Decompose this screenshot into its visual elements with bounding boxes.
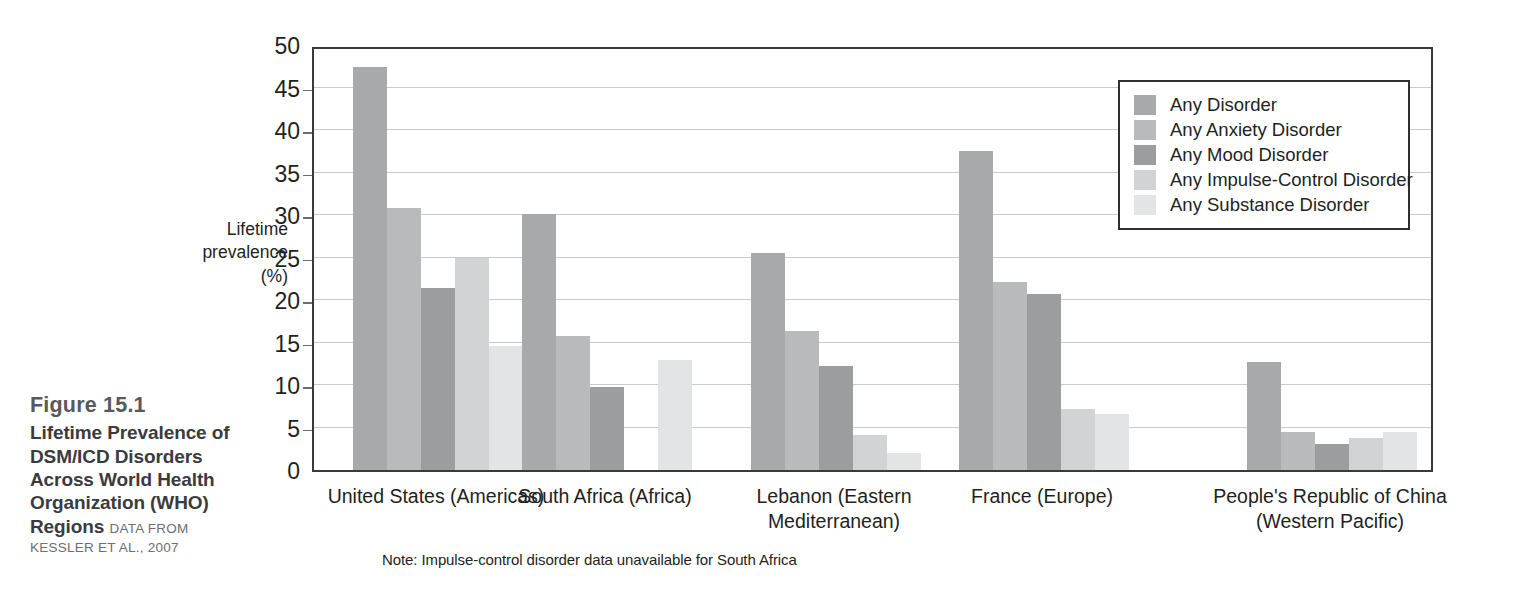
x-axis-group-label-line: France (Europe): [892, 484, 1192, 509]
y-axis-tick-mark: [303, 175, 312, 177]
bar: [1061, 409, 1095, 470]
figure-title-text: Lifetime Prevalence of DSM/ICD Disorders…: [30, 422, 230, 536]
legend-item: Any Substance Disorder: [1120, 192, 1408, 217]
bar: [353, 67, 387, 470]
legend-item-label: Any Mood Disorder: [1170, 144, 1328, 166]
y-axis-tick-label: 45: [240, 78, 300, 101]
bar: [1281, 432, 1315, 470]
x-axis-group-label-line: Mediterranean): [684, 509, 984, 534]
y-axis-tick-mark: [303, 345, 312, 347]
figure-source-citation: KESSLER ET AL., 2007: [30, 540, 262, 557]
y-axis-tick-label: 10: [240, 375, 300, 398]
figure-source-lead: DATA FROM: [109, 521, 188, 536]
bar: [387, 208, 421, 470]
y-axis-tick-label: 35: [240, 163, 300, 186]
bar: [590, 387, 624, 470]
figure-page: Figure 15.1 Lifetime Prevalence of DSM/I…: [0, 0, 1516, 603]
bar: [421, 288, 455, 470]
bar: [1349, 438, 1383, 470]
figure-title: Lifetime Prevalence of DSM/ICD Disorders…: [30, 421, 262, 556]
chart-note: Note: Impulse-control disorder data unav…: [382, 551, 797, 568]
y-axis-tick-mark: [303, 387, 312, 389]
bar: [455, 258, 489, 471]
y-axis-tick-mark: [303, 90, 312, 92]
y-axis-tick-label: 15: [240, 333, 300, 356]
legend-swatch-icon: [1134, 170, 1156, 190]
legend-item-label: Any Disorder: [1170, 94, 1277, 116]
bar: [751, 253, 785, 470]
y-axis-tick-label: 25: [240, 248, 300, 271]
y-axis-tick-label: 0: [240, 460, 300, 483]
legend-item-label: Any Impulse-Control Disorder: [1170, 169, 1413, 191]
bar: [887, 453, 921, 470]
bar: [853, 435, 887, 470]
y-axis-tick-label: 5: [240, 418, 300, 441]
y-axis-tick-mark: [303, 302, 312, 304]
y-axis-tick-mark: [303, 260, 312, 262]
bar: [819, 366, 853, 470]
y-axis-tick-label: 20: [240, 290, 300, 313]
legend-item: Any Disorder: [1120, 92, 1408, 117]
bar: [1315, 444, 1349, 470]
bar: [993, 282, 1027, 470]
y-axis-tick-label: 30: [240, 205, 300, 228]
bar: [522, 214, 556, 470]
bar: [658, 360, 692, 471]
y-axis-tick-label: 50: [240, 35, 300, 58]
y-axis-tick-label: 40: [240, 120, 300, 143]
legend-swatch-icon: [1134, 95, 1156, 115]
legend-swatch-icon: [1134, 195, 1156, 215]
bar: [785, 331, 819, 470]
bar: [959, 151, 993, 470]
legend-item-label: Any Anxiety Disorder: [1170, 119, 1342, 141]
y-axis-tick-mark: [303, 217, 312, 219]
figure-number: Figure 15.1: [30, 392, 262, 418]
legend-item: Any Anxiety Disorder: [1120, 117, 1408, 142]
legend-item: Any Impulse-Control Disorder: [1120, 167, 1408, 192]
x-axis-group-label-line: People's Republic of China: [1180, 484, 1480, 509]
bar: [556, 336, 590, 470]
bar: [1247, 362, 1281, 470]
y-axis-tick-mark: [303, 430, 312, 432]
bar: [1027, 294, 1061, 470]
bar: [489, 346, 523, 470]
x-axis-group-label: People's Republic of China(Western Pacif…: [1180, 484, 1480, 533]
x-axis-group-label: France (Europe): [892, 484, 1192, 509]
bar: [1383, 432, 1417, 470]
legend-swatch-icon: [1134, 145, 1156, 165]
legend-item-label: Any Substance Disorder: [1170, 194, 1370, 216]
legend-swatch-icon: [1134, 120, 1156, 140]
bar: [1095, 414, 1129, 470]
x-axis-group-label-line: (Western Pacific): [1180, 509, 1480, 534]
legend-item: Any Mood Disorder: [1120, 142, 1408, 167]
figure-caption: Figure 15.1 Lifetime Prevalence of DSM/I…: [30, 392, 262, 557]
y-axis-tick-mark: [303, 132, 312, 134]
chart-legend: Any DisorderAny Anxiety DisorderAny Mood…: [1118, 80, 1410, 230]
